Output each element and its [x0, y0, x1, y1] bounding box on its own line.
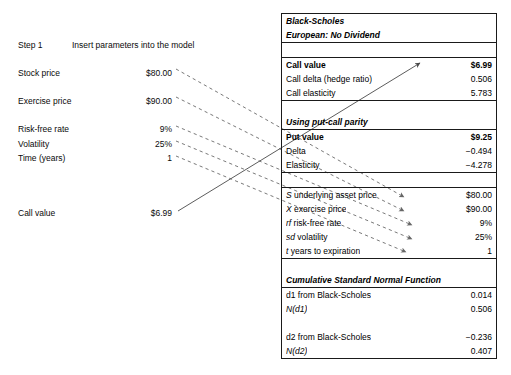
row-value: $80.00: [466, 188, 492, 202]
row-value: 5.783: [471, 86, 492, 100]
input-value-time-years[interactable]: 1: [100, 153, 172, 163]
cdf-values-band: d1 from Black-Scholes 0.014 N(d1) 0.506 …: [282, 288, 496, 358]
cdf-header-band: Cumulative Standard Normal Function: [282, 259, 496, 288]
spacer: [282, 101, 496, 115]
table-row-param-years-to-expiration[interactable]: t years to expiration 1: [282, 244, 496, 258]
input-label-stock-price: Stock price: [18, 68, 60, 78]
table-row-call-elasticity: Call elasticity 5.783: [282, 86, 496, 100]
row-value: 0.014: [471, 288, 492, 302]
output-value-call-value: $6.99: [100, 208, 172, 218]
parameters-spacer-band: [282, 173, 496, 188]
param-name: underlying asset price: [294, 190, 377, 200]
step-label: Step 1: [18, 40, 43, 50]
row-label: S underlying asset price: [286, 188, 377, 202]
table-row-call-value: Call value $6.99: [282, 58, 496, 72]
worksheet-page: Step 1 Insert parameters into the model …: [0, 0, 511, 375]
row-value: −0.236: [466, 330, 492, 344]
table-row-param-risk-free-rate[interactable]: rf risk-free rate 9%: [282, 216, 496, 230]
input-label-risk-free-rate: Risk-free rate: [18, 124, 69, 134]
row-label: rf risk-free rate: [286, 216, 341, 230]
param-symbol-t: t: [286, 246, 288, 256]
param-name: exercise price: [294, 204, 346, 214]
spacer: [282, 259, 496, 273]
put-results-band: Put value $9.25 Delta −0.494 Elasticity …: [282, 130, 496, 173]
param-symbol-rf: rf: [286, 218, 291, 228]
parity-header: Using put-call parity: [282, 115, 496, 129]
row-label: Put value: [286, 130, 324, 144]
row-value: $90.00: [466, 202, 492, 216]
row-label: Elasticity: [286, 158, 320, 172]
row-value: 9%: [480, 216, 492, 230]
table-row-cdf-spacer: [282, 316, 496, 330]
row-label: N(d1): [286, 302, 307, 316]
row-label: N(d2): [286, 344, 307, 358]
parameters-band: S underlying asset price $80.00 X exerci…: [282, 188, 496, 259]
table-row-param-volatility[interactable]: sd volatility 25%: [282, 230, 496, 244]
table-row-param-exercise-price[interactable]: X exercise price $90.00: [282, 202, 496, 216]
param-symbol-S: S: [286, 190, 292, 200]
table-row-call-delta: Call delta (hedge ratio) 0.506: [282, 72, 496, 86]
table-row-put-delta: Delta −0.494: [282, 144, 496, 158]
title-spacer-band: [282, 43, 496, 58]
parity-header-band: Using put-call parity: [282, 101, 496, 130]
table-row-param-underlying-price[interactable]: S underlying asset price $80.00: [282, 188, 496, 202]
table-row-n-d1: N(d1) 0.506: [282, 302, 496, 316]
row-label: Call value: [286, 58, 326, 72]
row-label: d2 from Black-Scholes: [286, 330, 371, 344]
input-value-risk-free-rate[interactable]: 9%: [100, 124, 172, 134]
input-label-volatility: Volatility: [18, 139, 49, 149]
row-value: $6.99: [471, 58, 492, 72]
output-label-call-value: Call value: [18, 208, 55, 218]
table-row-d1: d1 from Black-Scholes 0.014: [282, 288, 496, 302]
row-value: 25%: [475, 230, 492, 244]
param-symbol-sd: sd: [286, 232, 295, 242]
model-title-line1: Black-Scholes: [282, 14, 496, 28]
row-label: X exercise price: [286, 202, 346, 216]
row-label: Delta: [286, 144, 306, 158]
input-label-exercise-price: Exercise price: [18, 96, 71, 106]
input-value-exercise-price[interactable]: $90.00: [100, 96, 172, 106]
param-name: volatility: [297, 232, 327, 242]
model-title-line2: European: No Dividend: [282, 28, 496, 42]
row-label: Call elasticity: [286, 86, 336, 100]
param-name: years to expiration: [291, 246, 360, 256]
row-value: −0.494: [466, 144, 492, 158]
row-value: 1: [487, 244, 492, 258]
black-scholes-model-table: Black-Scholes European: No Dividend Call…: [281, 13, 497, 359]
row-value: 0.407: [471, 344, 492, 358]
call-results-band: Call value $6.99 Call delta (hedge ratio…: [282, 58, 496, 101]
table-row-d2: d2 from Black-Scholes −0.236: [282, 330, 496, 344]
spacer: [282, 43, 496, 57]
row-value: $9.25: [471, 130, 492, 144]
table-row-n-d2: N(d2) 0.407: [282, 344, 496, 358]
param-symbol-X: X: [286, 204, 292, 214]
row-label: Call delta (hedge ratio): [286, 72, 372, 86]
row-label: t years to expiration: [286, 244, 360, 258]
row-label: d1 from Black-Scholes: [286, 288, 371, 302]
table-row-put-value: Put value $9.25: [282, 130, 496, 144]
row-label: sd volatility: [286, 230, 328, 244]
cdf-header: Cumulative Standard Normal Function: [282, 273, 496, 287]
title-band: Black-Scholes European: No Dividend: [282, 14, 496, 43]
table-row-put-elasticity: Elasticity −4.278: [282, 158, 496, 172]
row-value: 0.506: [471, 302, 492, 316]
step-description: Insert parameters into the model: [72, 40, 194, 50]
param-name: risk-free rate: [294, 218, 342, 228]
row-value: 0.506: [471, 72, 492, 86]
input-label-time-years: Time (years): [18, 153, 65, 163]
input-value-stock-price[interactable]: $80.00: [100, 68, 172, 78]
spacer: [282, 173, 496, 187]
input-value-volatility[interactable]: 25%: [100, 139, 172, 149]
row-value: −4.278: [466, 158, 492, 172]
